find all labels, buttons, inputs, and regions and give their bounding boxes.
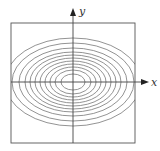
contour-diagram: x y xyxy=(0,0,160,151)
x-axis-arrow-icon xyxy=(141,79,149,85)
x-axis-label: x xyxy=(151,76,158,89)
y-axis-arrow-icon xyxy=(70,8,76,16)
y-axis-label: y xyxy=(78,5,86,18)
